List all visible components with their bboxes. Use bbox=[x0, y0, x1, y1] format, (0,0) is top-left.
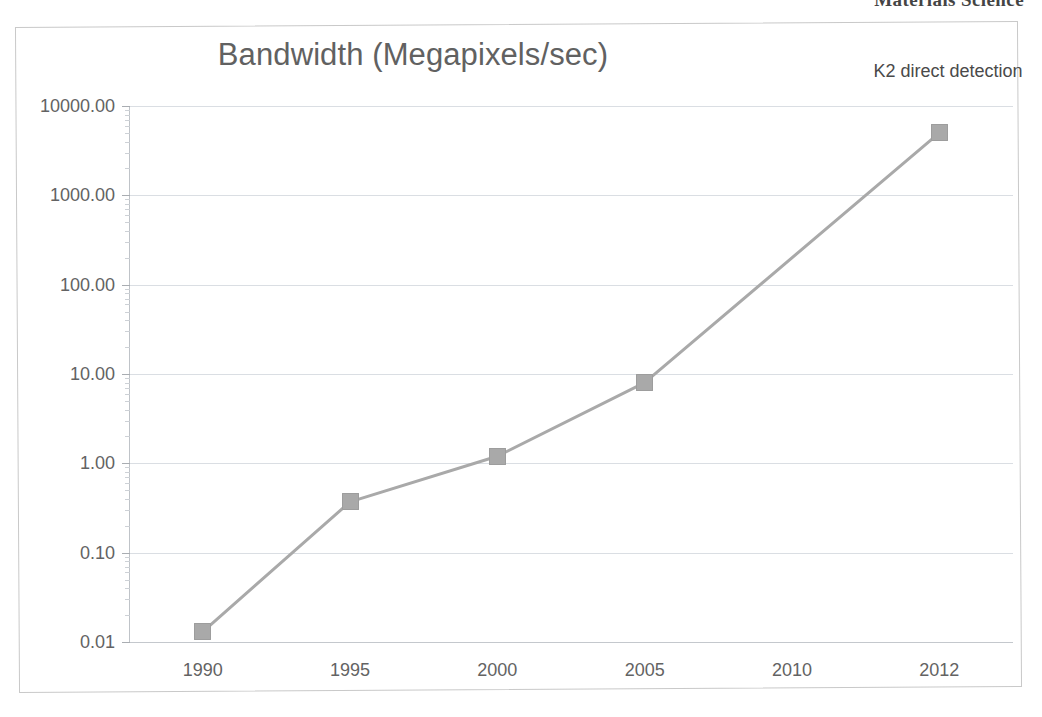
data-point-marker bbox=[636, 374, 653, 391]
y-axis-minor-tick bbox=[125, 599, 130, 600]
data-point-marker bbox=[342, 493, 359, 510]
data-point-marker bbox=[194, 623, 211, 640]
y-axis-minor-tick bbox=[125, 588, 130, 589]
y-axis-minor-tick bbox=[125, 320, 130, 321]
y-axis-minor-tick bbox=[125, 477, 130, 478]
y-axis-minor-tick bbox=[125, 499, 130, 500]
y-axis-minor-tick bbox=[125, 258, 130, 259]
gridline bbox=[129, 374, 1013, 375]
y-axis-minor-tick bbox=[125, 378, 130, 379]
y-axis-minor-tick bbox=[125, 572, 130, 573]
gridline bbox=[129, 553, 1013, 554]
x-axis-label: 1990 bbox=[183, 660, 223, 681]
x-axis-label: 2010 bbox=[772, 660, 812, 681]
y-axis-tick bbox=[122, 463, 130, 464]
y-axis-minor-tick bbox=[125, 580, 130, 581]
y-axis-minor-tick bbox=[125, 421, 130, 422]
y-axis-label: 1.00 bbox=[80, 453, 115, 474]
y-axis-label: 10.00 bbox=[70, 364, 115, 385]
y-axis-minor-tick bbox=[125, 615, 130, 616]
y-axis-minor-tick bbox=[125, 526, 130, 527]
y-axis-minor-tick bbox=[125, 410, 130, 411]
y-axis-minor-tick bbox=[125, 567, 130, 568]
x-axis-label: 2012 bbox=[919, 660, 959, 681]
y-axis-label: 100.00 bbox=[60, 274, 115, 295]
plot-area: 10000.001000.00100.0010.001.000.100.01 1… bbox=[129, 106, 1013, 642]
y-axis-minor-tick bbox=[125, 561, 130, 562]
y-axis-tick bbox=[122, 374, 130, 375]
y-axis-minor-tick bbox=[125, 347, 130, 348]
y-axis-minor-tick bbox=[125, 299, 130, 300]
y-axis-minor-tick bbox=[125, 467, 130, 468]
y-axis-label: 1000.00 bbox=[50, 185, 115, 206]
data-point-marker bbox=[931, 124, 948, 141]
y-axis-minor-tick bbox=[125, 388, 130, 389]
chart-title: Bandwidth (Megapixels/sec) bbox=[18, 37, 808, 73]
y-axis-minor-tick bbox=[125, 383, 130, 384]
data-point-marker bbox=[489, 448, 506, 465]
gridline bbox=[129, 463, 1013, 464]
y-axis-minor-tick bbox=[125, 289, 130, 290]
y-axis-minor-tick bbox=[125, 557, 130, 558]
gridline bbox=[129, 285, 1013, 286]
page-header-fragment: Materials Science bbox=[874, 0, 1024, 11]
x-axis-label: 2000 bbox=[477, 660, 517, 681]
y-axis-label: 0.01 bbox=[80, 632, 115, 653]
y-axis-minor-tick bbox=[125, 483, 130, 484]
y-axis-minor-tick bbox=[125, 394, 130, 395]
y-axis-minor-tick bbox=[125, 331, 130, 332]
y-axis-tick bbox=[122, 553, 130, 554]
y-axis-tick bbox=[122, 285, 130, 286]
y-axis-tick bbox=[122, 642, 130, 643]
annotation-k2-direct-detection: K2 direct detection bbox=[873, 58, 1023, 84]
y-axis-minor-tick bbox=[125, 510, 130, 511]
y-axis-minor-tick bbox=[125, 436, 130, 437]
y-axis-minor-tick bbox=[125, 304, 130, 305]
x-axis-label: 2005 bbox=[625, 660, 665, 681]
chart-frame: Bandwidth (Megapixels/sec) K2 direct det… bbox=[15, 21, 1022, 693]
series-line-bandwidth bbox=[129, 106, 429, 256]
y-axis-minor-tick bbox=[125, 490, 130, 491]
y-axis-minor-tick bbox=[125, 472, 130, 473]
y-axis-minor-tick bbox=[125, 312, 130, 313]
y-axis-label: 0.10 bbox=[80, 542, 115, 563]
x-axis-label: 1995 bbox=[330, 660, 370, 681]
y-axis-label: 10000.00 bbox=[40, 96, 115, 117]
y-axis-minor-tick bbox=[125, 401, 130, 402]
gridline bbox=[129, 642, 1013, 643]
y-axis-minor-tick bbox=[125, 293, 130, 294]
